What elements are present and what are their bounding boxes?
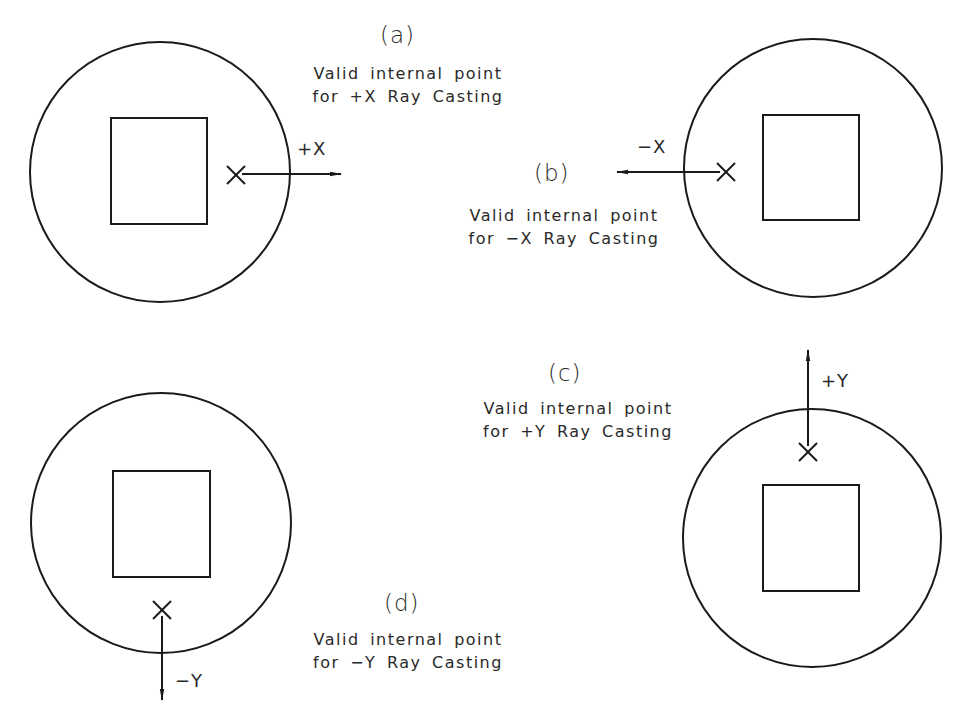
panel-c-direction-label: +Y xyxy=(821,370,849,391)
panel-a-letter: (a) xyxy=(380,22,415,48)
panel-a-inner-square xyxy=(111,118,207,224)
panel-b-caption: Valid internal point for −X Ray Casting xyxy=(452,204,676,250)
panel-d-outer-circle xyxy=(31,393,291,653)
panel-a-caption-line2: for +X Ray Casting xyxy=(296,85,520,108)
panel-c-letter: (c) xyxy=(548,360,582,386)
panel-c-inner-square xyxy=(763,485,859,591)
panel-a-caption: Valid internal point for +X Ray Casting xyxy=(296,62,520,108)
panel-c-caption-line1: Valid internal point xyxy=(466,397,690,420)
panel-b-caption-line2: for −X Ray Casting xyxy=(452,227,676,250)
panel-b-inner-square xyxy=(763,115,859,220)
panel-a-outer-circle xyxy=(30,42,290,302)
panel-d-caption-line1: Valid internal point xyxy=(296,628,520,651)
panel-d-letter: (d) xyxy=(384,590,420,616)
panel-a-caption-line1: Valid internal point xyxy=(296,62,520,85)
panel-a-direction-label: +X xyxy=(297,138,326,159)
panel-c xyxy=(683,350,941,667)
panel-d-caption: Valid internal point for −Y Ray Casting xyxy=(296,628,520,674)
panel-d-direction-label: −Y xyxy=(175,670,203,691)
panel-d-caption-line2: for −Y Ray Casting xyxy=(296,651,520,674)
panel-b-letter: (b) xyxy=(534,160,570,186)
panel-c-caption-line2: for +Y Ray Casting xyxy=(466,420,690,443)
panel-a xyxy=(30,42,341,302)
panel-c-caption: Valid internal point for +Y Ray Casting xyxy=(466,397,690,443)
panel-b-caption-line1: Valid internal point xyxy=(452,204,676,227)
panel-d xyxy=(31,393,291,700)
panel-b xyxy=(617,39,942,297)
panel-d-inner-square xyxy=(113,471,210,577)
ray-casting-diagram xyxy=(0,0,960,721)
panel-b-direction-label: −X xyxy=(637,136,666,157)
